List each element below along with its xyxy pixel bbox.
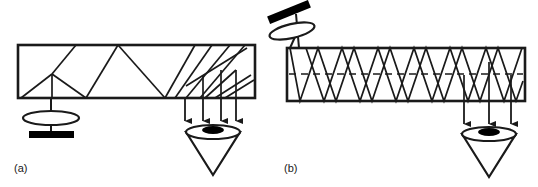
figure-canvas: (a)	[0, 0, 538, 187]
collimating-lens-a	[23, 111, 79, 125]
panel-caption-a: (a)	[14, 162, 27, 174]
detector-active-patch-a	[202, 126, 224, 134]
detector-active-patch-b	[478, 128, 500, 136]
panel-caption-b: (b)	[284, 162, 297, 174]
optical-ray-diagram-figure: (a)	[0, 0, 538, 187]
light-source-bar-a	[29, 131, 74, 138]
